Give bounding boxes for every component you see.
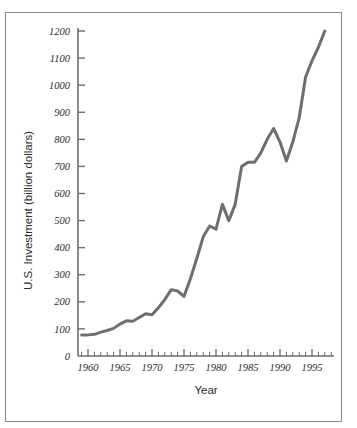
y-tick-label: 600: [54, 188, 71, 199]
y-tick-label: 1100: [50, 53, 71, 64]
x-axis-tick-labels: 19601965197019751980198519901995: [78, 362, 323, 373]
x-axis-title: Year: [194, 384, 217, 396]
y-tick-label: 1000: [49, 80, 71, 91]
x-tick-label: 1990: [270, 362, 292, 373]
x-tick-label: 1960: [78, 362, 100, 373]
y-tick-label: 200: [54, 296, 71, 307]
x-tick-label: 1965: [110, 362, 131, 373]
y-axis-tick-labels: 0100200300400500600700800900100011001200: [49, 26, 71, 362]
y-tick-label: 400: [54, 242, 71, 253]
y-axis-title: U.S. Investment (billion dollars): [22, 131, 34, 290]
y-axis-ticks: [78, 31, 85, 329]
y-tick-label: 300: [53, 269, 71, 280]
x-axis-ticks: [82, 349, 332, 356]
x-tick-label: 1995: [302, 362, 323, 373]
data-series-line: [82, 31, 325, 335]
x-tick-label: 1985: [238, 362, 259, 373]
y-tick-label: 800: [54, 134, 71, 145]
y-tick-label: 0: [65, 351, 71, 362]
figure-container: 0100200300400500600700800900100011001200…: [0, 0, 357, 428]
y-tick-label: 700: [54, 161, 71, 172]
x-tick-label: 1980: [206, 362, 228, 373]
y-tick-label: 500: [54, 215, 71, 226]
x-tick-label: 1970: [142, 362, 164, 373]
y-tick-label: 900: [54, 107, 71, 118]
y-tick-label: 1200: [49, 26, 71, 37]
x-tick-label: 1975: [174, 362, 195, 373]
investment-line-chart: 0100200300400500600700800900100011001200…: [0, 0, 357, 428]
y-tick-label: 100: [54, 324, 71, 335]
